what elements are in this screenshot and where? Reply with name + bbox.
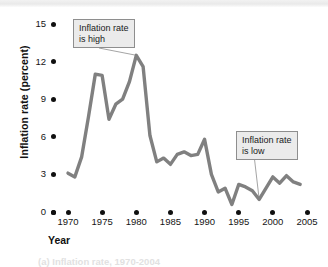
axis-origin-dot	[51, 210, 56, 215]
callout-inflation-low: Inflation rate is low	[236, 131, 298, 160]
clipped-caption: (a) Inflation rate, 1970-2004	[38, 256, 160, 267]
callout-high-leader-line	[99, 48, 136, 55]
callout-inflation-high: Inflation rate is high	[73, 19, 135, 48]
inflation-rate-line	[68, 55, 300, 204]
